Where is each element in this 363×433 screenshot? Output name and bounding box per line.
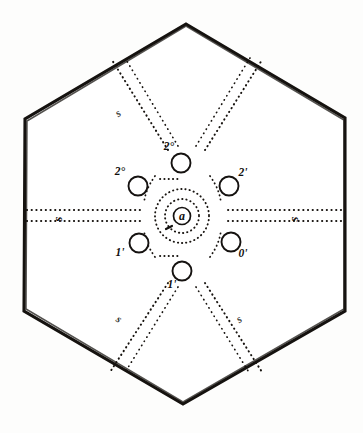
- node-lower-left-circle: [130, 234, 149, 253]
- node-top-label: 2°: [163, 140, 175, 152]
- center-node-label: a: [179, 209, 185, 223]
- node-lower-left-label: 1': [116, 246, 125, 258]
- figure-canvas: a 2° 2' 0' 1' 1': [0, 0, 363, 433]
- node-top-circle: [172, 154, 191, 173]
- node-upper-right-circle: [220, 177, 239, 196]
- node-upper-left-circle: [129, 177, 148, 196]
- node-bottom-label: 1': [168, 278, 177, 290]
- node-upper-left-label: 2°: [114, 165, 126, 177]
- node-lower-right-label: 0': [239, 247, 248, 259]
- hexagonal-radial-diagram: a 2° 2' 0' 1' 1': [0, 0, 363, 433]
- node-upper-right-label: 2': [238, 166, 248, 178]
- edge-label-left-s: s: [51, 216, 65, 222]
- edge-label-right-s: s: [287, 216, 301, 222]
